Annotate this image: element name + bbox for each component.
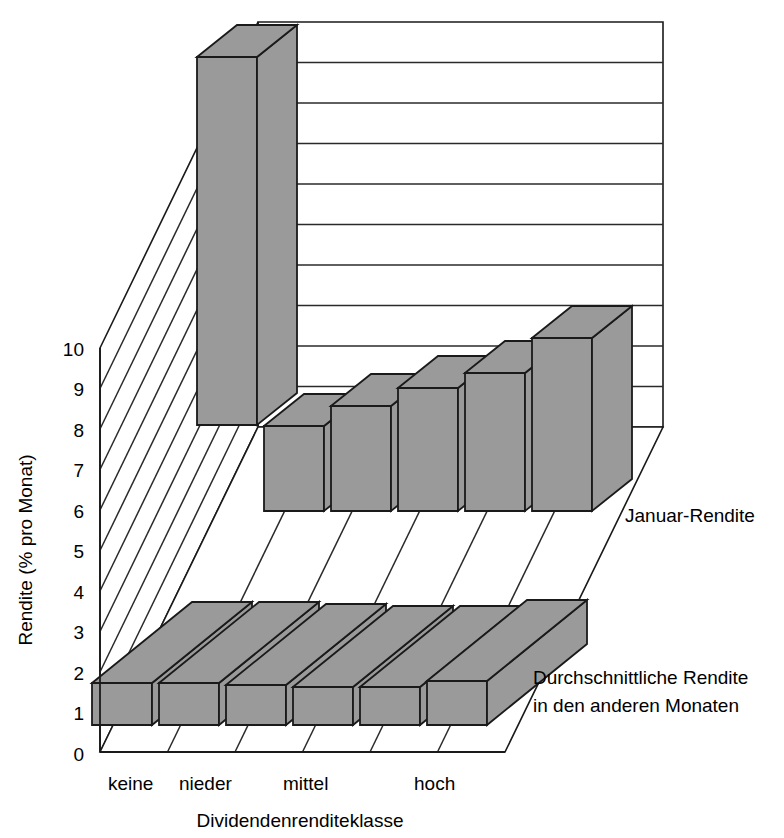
series-label-durchschnitt-line2: in den anderen Monaten xyxy=(533,695,739,716)
series-label-durchschnitt-line1: Durchschnittliche Rendite xyxy=(533,667,748,688)
bar-back-hoch[interactable] xyxy=(532,306,632,511)
chart-container: 10 9 8 7 6 5 4 3 2 1 0 Rendite (% pro Mo… xyxy=(0,0,784,838)
x-axis-title: Dividendenrenditeklasse xyxy=(196,810,403,831)
y-axis-tick-labels: 10 9 8 7 6 5 4 3 2 1 0 xyxy=(63,339,85,765)
y-tick-6: 6 xyxy=(73,501,84,522)
y-tick-3: 3 xyxy=(73,622,84,643)
y-tick-1: 1 xyxy=(73,703,84,724)
series-label-januar-rendite: Januar-Rendite xyxy=(625,505,755,526)
y-tick-9: 9 xyxy=(73,379,84,400)
category-label-mittel: mittel xyxy=(283,773,328,794)
y-tick-5: 5 xyxy=(73,541,84,562)
category-label-nieder: nieder xyxy=(179,773,232,794)
y-tick-2: 2 xyxy=(73,663,84,684)
x-axis-category-labels: keine nieder mittel hoch xyxy=(108,773,455,794)
y-tick-4: 4 xyxy=(73,582,84,603)
y-tick-7: 7 xyxy=(73,460,84,481)
y-tick-0: 0 xyxy=(73,744,84,765)
category-label-hoch: hoch xyxy=(414,773,455,794)
y-tick-10: 10 xyxy=(63,339,84,360)
y-tick-8: 8 xyxy=(73,420,84,441)
category-label-keine: keine xyxy=(108,773,153,794)
y-axis-title: Rendite (% pro Monat) xyxy=(15,454,36,645)
bar-back-keine[interactable] xyxy=(197,25,297,425)
three-d-bar-chart: 10 9 8 7 6 5 4 3 2 1 0 Rendite (% pro Mo… xyxy=(0,0,784,838)
